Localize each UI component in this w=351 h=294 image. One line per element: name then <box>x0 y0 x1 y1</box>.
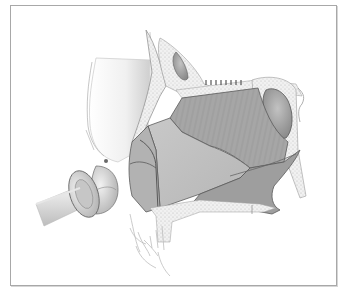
maxillary-crest <box>150 200 276 242</box>
frontal-sinus <box>158 38 216 92</box>
marker-dot <box>104 159 108 163</box>
nasal-anatomy-illustration <box>0 0 351 294</box>
surgical-instrument <box>36 166 118 226</box>
